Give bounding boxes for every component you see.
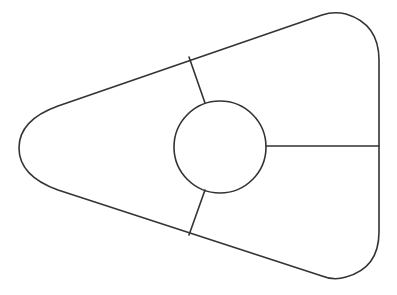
diagram-canvas xyxy=(0,0,397,295)
diagram-background xyxy=(0,0,397,295)
